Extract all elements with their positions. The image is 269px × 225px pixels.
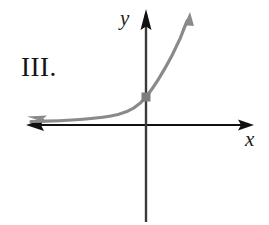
graph-plot	[0, 0, 269, 225]
y-intercept-point-marker	[142, 93, 151, 102]
figure-item-label: III.	[21, 54, 57, 81]
y-axis-label: y	[120, 8, 129, 29]
figure-canvas: III. y x	[0, 0, 269, 225]
x-axis-label: x	[245, 129, 254, 150]
curve-right-arrow-icon	[182, 12, 195, 31]
